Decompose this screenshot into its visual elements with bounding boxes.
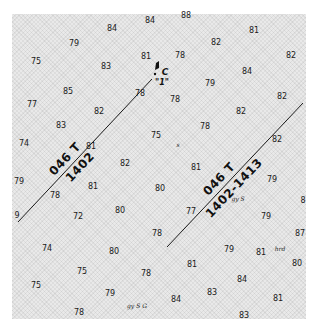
- depth-sounding: 83: [56, 122, 66, 130]
- depth-sounding: 74: [42, 245, 52, 253]
- depth-sounding: 81: [273, 295, 283, 303]
- depth-sounding: 78: [74, 309, 84, 317]
- depth-sounding: 85: [63, 88, 73, 96]
- depth-sounding: 82: [120, 160, 130, 168]
- depth-sounding: 78: [152, 230, 162, 238]
- depth-sounding: 72: [73, 213, 83, 221]
- depth-sounding: 8: [300, 197, 305, 205]
- depth-sounding: 9: [14, 212, 19, 220]
- depth-sounding: 79: [69, 40, 79, 48]
- depth-sounding: 80: [292, 260, 302, 268]
- depth-sounding: 83: [101, 63, 111, 71]
- depth-sounding: 87: [295, 230, 305, 238]
- depth-sounding: 80: [155, 185, 165, 193]
- depth-sounding: 78: [141, 270, 151, 278]
- depth-sounding: 78: [170, 96, 180, 104]
- depth-sounding: 78: [135, 90, 145, 98]
- depth-sounding: 75: [151, 132, 161, 140]
- depth-sounding: 79: [267, 176, 277, 184]
- depth-sounding: 80: [115, 207, 125, 215]
- depth-sounding: 79: [205, 80, 215, 88]
- depth-sounding: 81: [191, 164, 201, 172]
- depth-sounding: 80: [109, 248, 119, 256]
- depth-sounding: 82: [211, 39, 221, 47]
- depth-sounding: 82: [94, 108, 104, 116]
- depth-sounding: 83: [239, 312, 249, 320]
- depth-sounding: 82: [286, 52, 296, 60]
- depth-sounding: 79: [224, 246, 234, 254]
- buoy-number: "1": [155, 78, 169, 87]
- buoy-position-dot: [154, 73, 156, 75]
- depth-sounding: 81: [88, 183, 98, 191]
- depth-sounding: 79: [261, 213, 271, 221]
- seabed-note: gy S G: [127, 302, 147, 309]
- depth-sounding: 83: [207, 289, 217, 297]
- depth-sounding: 82: [236, 108, 246, 116]
- depth-sounding: 81: [141, 53, 151, 61]
- depth-sounding: 84: [171, 296, 181, 304]
- depth-sounding: 81: [256, 249, 266, 257]
- depth-sounding: 77: [186, 208, 196, 216]
- depth-sounding: 82: [277, 93, 287, 101]
- depth-sounding: 88: [181, 12, 191, 20]
- seabed-note: s: [176, 141, 179, 148]
- seabed-note: hrd: [275, 245, 286, 252]
- depth-sounding: 84: [237, 276, 247, 284]
- depth-sounding: 81: [249, 27, 259, 35]
- route-lines: [0, 0, 317, 329]
- buoy-icon: [155, 61, 159, 70]
- depth-sounding: 81: [187, 261, 197, 269]
- depth-sounding: 78: [200, 123, 210, 131]
- depth-sounding: 84: [242, 68, 252, 76]
- depth-sounding: 78: [175, 52, 185, 60]
- depth-sounding: 84: [145, 17, 155, 25]
- depth-sounding: 82: [272, 136, 282, 144]
- depth-sounding: 78: [50, 192, 60, 200]
- depth-sounding: 75: [31, 58, 41, 66]
- depth-sounding: 79: [14, 178, 24, 186]
- depth-sounding: 77: [27, 101, 37, 109]
- depth-sounding: 79: [105, 290, 115, 298]
- depth-sounding: 75: [77, 268, 87, 276]
- depth-sounding: 74: [19, 140, 29, 148]
- depth-sounding: 75: [31, 282, 41, 290]
- depth-sounding: 84: [107, 25, 117, 33]
- buoy-letter: C: [162, 67, 169, 77]
